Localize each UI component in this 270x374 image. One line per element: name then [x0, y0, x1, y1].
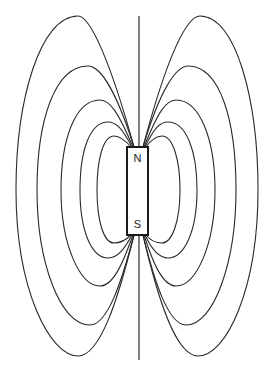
bar-magnet: N S	[127, 147, 148, 235]
left-field-lines	[16, 16, 134, 356]
north-pole-label: N	[134, 152, 142, 164]
field-line-right-1	[143, 16, 258, 356]
field-line-left-1	[16, 16, 134, 356]
field-line-left-5	[97, 136, 131, 243]
bar-magnet-field-diagram: N S	[0, 0, 270, 374]
right-field-lines	[143, 16, 258, 356]
south-pole-label: S	[134, 218, 141, 230]
field-line-right-5	[146, 136, 180, 243]
